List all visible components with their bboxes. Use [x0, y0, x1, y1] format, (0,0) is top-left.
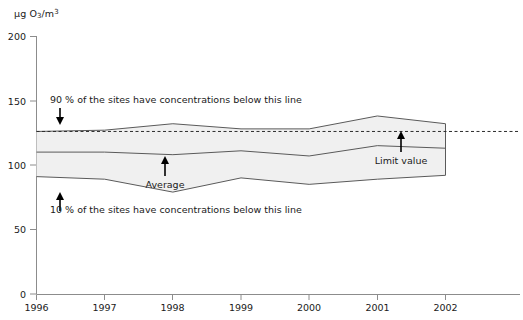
y-tick-label-100: 100 — [8, 160, 26, 171]
y-tick-label-50: 50 — [14, 224, 26, 235]
x-tick-label-1998: 1998 — [160, 302, 184, 313]
x-tick-label-2002: 2002 — [433, 302, 457, 313]
y-tick-label-0: 0 — [20, 289, 26, 300]
limit-value-label: Limit value — [375, 155, 428, 166]
x-tick-label-2001: 2001 — [365, 302, 389, 313]
x-tick-label-1996: 1996 — [24, 302, 48, 313]
x-tick-label-1999: 1999 — [229, 302, 253, 313]
x-tick-label-1997: 1997 — [92, 302, 116, 313]
ozone-percentile-band-chart: µg O3/m3 200 150 100 50 0 1996 1997 — [0, 0, 523, 320]
lower-percentile-annotation: 10 % of the sites have concentrations be… — [50, 192, 302, 215]
lower-percentile-annotation-text: 10 % of the sites have concentrations be… — [50, 204, 302, 215]
upper-percentile-annotation-text: 90 % of the sites have concentrations be… — [50, 94, 302, 105]
y-axis-ticks: 200 150 100 50 0 — [8, 31, 37, 300]
plot-area: 200 150 100 50 0 1996 1997 1998 1999 200… — [0, 0, 523, 320]
x-tick-label-2000: 2000 — [297, 302, 321, 313]
y-tick-label-150: 150 — [8, 96, 26, 107]
upper-percentile-annotation: 90 % of the sites have concentrations be… — [50, 94, 302, 125]
y-tick-label-200: 200 — [8, 31, 26, 42]
arrow-down-icon — [56, 108, 64, 125]
x-axis-ticks: 1996 1997 1998 1999 2000 2001 2002 — [24, 295, 457, 314]
average-label: Average — [145, 179, 184, 190]
